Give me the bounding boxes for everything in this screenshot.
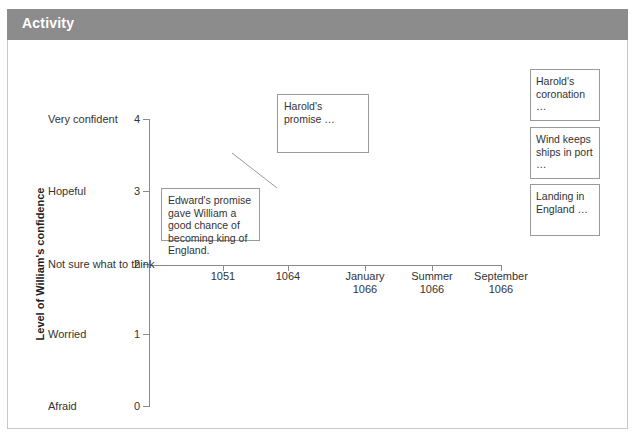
card-wind-keeps-ships-in-port-label: Wind keeps ships in port … — [536, 133, 593, 170]
note-edwards-promise-title: Edward's promise — [168, 194, 253, 207]
y-tick-value-0: 0 — [126, 400, 140, 412]
card-landing-in-england[interactable]: Landing in England … — [530, 184, 600, 236]
page-title: Activity — [22, 15, 74, 31]
y-tick-value-3: 3 — [126, 185, 140, 197]
note-edwards-promise-body: gave William a good chance of becoming k… — [168, 207, 253, 257]
header-bar: Activity — [7, 9, 628, 40]
y-tick-value-1: 1 — [126, 328, 140, 340]
y-axis-title: Level of William's confidence — [34, 174, 46, 354]
y-axis-label-very-confident: Very confident — [48, 113, 118, 125]
note-harolds-promise-title: Harold's promise … — [284, 100, 362, 125]
x-axis-label-january-1066-line1: January — [345, 270, 384, 282]
x-axis-label-1051-line1: 1051 — [211, 270, 235, 282]
x-axis-label-1064-line1: 1064 — [276, 270, 300, 282]
activity-screen: Activity Level of William's confidence 4… — [0, 0, 637, 439]
x-axis-label-september-1066: September 1066 — [456, 270, 546, 296]
note-edwards-promise[interactable]: Edward's promise gave William a good cha… — [161, 188, 260, 241]
x-axis-label-summer-1066-line2: 1066 — [420, 283, 444, 295]
y-axis-label-worried: Worried — [48, 328, 86, 340]
card-harolds-coronation[interactable]: Harold's coronation … — [530, 69, 600, 121]
note-harolds-promise[interactable]: Harold's promise … — [277, 94, 369, 153]
card-wind-keeps-ships-in-port[interactable]: Wind keeps ships in port … — [530, 127, 600, 179]
x-axis-label-september-1066-line2: 1066 — [489, 283, 513, 295]
x-axis-line — [149, 265, 502, 266]
card-landing-in-england-label: Landing in England … — [536, 190, 588, 215]
y-tick-mark-1 — [143, 334, 149, 335]
y-axis-label-not-sure: Not sure what to think — [48, 258, 154, 270]
x-axis-label-january-1066-line2: 1066 — [353, 283, 377, 295]
y-axis-label-hopeful: Hopeful — [48, 185, 86, 197]
card-harolds-coronation-label: Harold's coronation … — [536, 75, 585, 112]
y-axis-label-afraid: Afraid — [48, 400, 77, 412]
x-axis-label-september-1066-line1: September — [474, 270, 528, 282]
y-tick-value-4: 4 — [126, 113, 140, 125]
y-tick-mark-0 — [143, 406, 149, 407]
x-axis-label-summer-1066-line1: Summer — [411, 270, 453, 282]
